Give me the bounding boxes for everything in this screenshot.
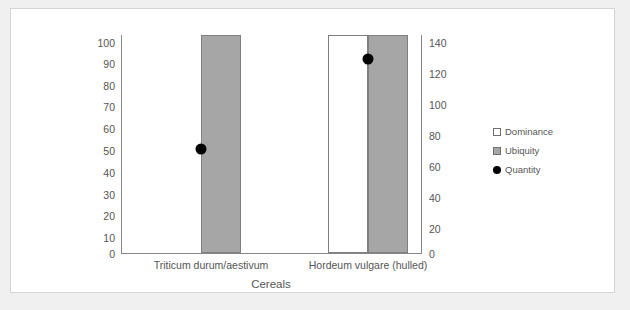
- left-axis-tick: 30: [103, 190, 115, 201]
- legend-label-dominance: Dominance: [505, 126, 553, 137]
- bar-dominance-hordeum[interactable]: [328, 35, 368, 253]
- chart-card: 100 90 80 70 60 50 40 30 20 10 0 140 120…: [10, 8, 615, 293]
- right-axis-ticks: 140 120 100 80 60 40 20 0: [429, 9, 469, 294]
- left-axis-tick: 10: [103, 233, 115, 244]
- right-axis-tick: 120: [429, 69, 447, 80]
- legend-label-ubiquity: Ubiquity: [505, 145, 539, 156]
- left-axis-tick: 100: [97, 38, 115, 49]
- chart-legend: Dominance Ubiquity Quantity: [493, 122, 603, 179]
- left-axis-tick: 0: [109, 249, 115, 260]
- legend-item-dominance[interactable]: Dominance: [493, 122, 603, 141]
- legend-item-quantity[interactable]: Quantity: [493, 160, 603, 179]
- right-axis-tick: 60: [429, 162, 441, 173]
- category-label-triticum: Triticum durum/aestivum: [131, 259, 291, 271]
- bar-ubiquity-triticum[interactable]: [201, 35, 241, 253]
- category-axis-line: [121, 253, 422, 254]
- legend-label-quantity: Quantity: [505, 164, 540, 175]
- right-axis-line: [421, 35, 422, 254]
- marker-quantity-triticum[interactable]: [196, 144, 207, 155]
- category-label-hordeum: Hordeum vulgare (hulled): [288, 259, 448, 271]
- left-axis-tick: 40: [103, 168, 115, 179]
- right-axis-tick: 80: [429, 131, 441, 142]
- right-axis-tick: 40: [429, 193, 441, 204]
- filled-square-icon: [493, 147, 501, 155]
- left-axis-tick: 20: [103, 211, 115, 222]
- open-square-icon: [493, 128, 501, 136]
- right-axis-tick: 100: [429, 100, 447, 111]
- left-axis-ticks: 100 90 80 70 60 50 40 30 20 10 0: [81, 9, 115, 294]
- marker-quantity-hordeum[interactable]: [363, 54, 374, 65]
- legend-item-ubiquity[interactable]: Ubiquity: [493, 141, 603, 160]
- left-axis-tick: 90: [103, 59, 115, 70]
- bar-ubiquity-hordeum[interactable]: [368, 35, 408, 253]
- right-axis-tick: 20: [429, 224, 441, 235]
- x-axis-title: Cereals: [121, 278, 421, 290]
- left-axis-tick: 60: [103, 124, 115, 135]
- left-axis-tick: 50: [103, 146, 115, 157]
- right-axis-tick: 140: [429, 38, 447, 49]
- left-axis-tick: 70: [103, 102, 115, 113]
- filled-circle-icon: [493, 166, 501, 174]
- left-axis-tick: 80: [103, 81, 115, 92]
- plot-area: [121, 35, 421, 253]
